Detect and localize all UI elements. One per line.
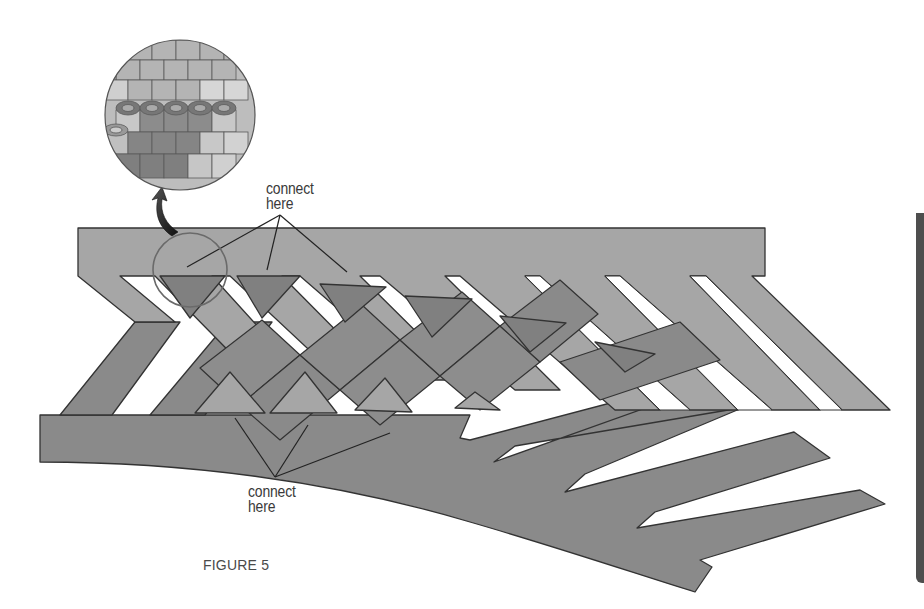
figure-caption: FIGURE 5	[203, 557, 269, 573]
top-connect-label: connect here	[266, 181, 314, 211]
bead-detail-circle	[92, 40, 255, 190]
weave-assembly-diagram	[0, 0, 924, 609]
bottom-connect-label: connect here	[248, 484, 296, 514]
page-edge-bar	[916, 213, 924, 583]
